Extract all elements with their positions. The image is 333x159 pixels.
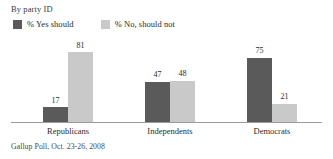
legend-item-no-should-not: % No, should not: [101, 19, 175, 29]
bar-wrap-independents-no: 48: [170, 36, 195, 122]
bar-democrats-yes: [247, 58, 272, 123]
bar-value-independents-no: 48: [179, 70, 187, 78]
bar-group-independents: 47 48: [145, 36, 195, 122]
bar-wrap-democrats-yes: 75: [247, 36, 272, 122]
bar-value-democrats-no: 21: [281, 93, 289, 101]
bar-value-republicans-no: 81: [77, 42, 85, 50]
category-label-republicans: Republicans: [43, 126, 93, 136]
legend-item-yes-should: % Yes should: [13, 19, 74, 29]
bar-independents-yes: [145, 82, 170, 122]
bar-value-democrats-yes: 75: [256, 47, 264, 55]
category-label-independents: Independents: [145, 126, 195, 136]
bar-value-republicans-yes: 17: [52, 97, 60, 105]
legend-swatch-yes-should: [13, 20, 22, 29]
bar-wrap-democrats-no: 21: [272, 36, 297, 122]
legend-label-yes-should: % Yes should: [27, 19, 74, 29]
legend-swatch-no-should-not: [101, 20, 110, 29]
legend-label-no-should-not: % No, should not: [115, 19, 175, 29]
bar-democrats-no: [272, 104, 297, 122]
x-axis-line: [11, 122, 322, 123]
bar-group-democrats: 75 21: [247, 36, 297, 122]
bar-independents-no: [170, 81, 195, 122]
chart-figure: By party ID % Yes should % No, should no…: [0, 0, 333, 159]
chart-legend: % Yes should % No, should not: [13, 19, 175, 29]
source-note: Gallup Poll, Oct. 23-26, 2008: [11, 142, 105, 151]
category-label-democrats: Democrats: [247, 126, 297, 136]
bar-republicans-yes: [43, 107, 68, 122]
chart-subtitle: By party ID: [11, 4, 53, 14]
bar-republicans-no: [68, 52, 93, 122]
plot-area: 17 81 47 48 75 21: [0, 36, 333, 123]
bar-wrap-republicans-yes: 17: [43, 36, 68, 122]
bar-wrap-independents-yes: 47: [145, 36, 170, 122]
bar-wrap-republicans-no: 81: [68, 36, 93, 122]
bar-group-republicans: 17 81: [43, 36, 93, 122]
bar-value-independents-yes: 47: [154, 71, 162, 79]
